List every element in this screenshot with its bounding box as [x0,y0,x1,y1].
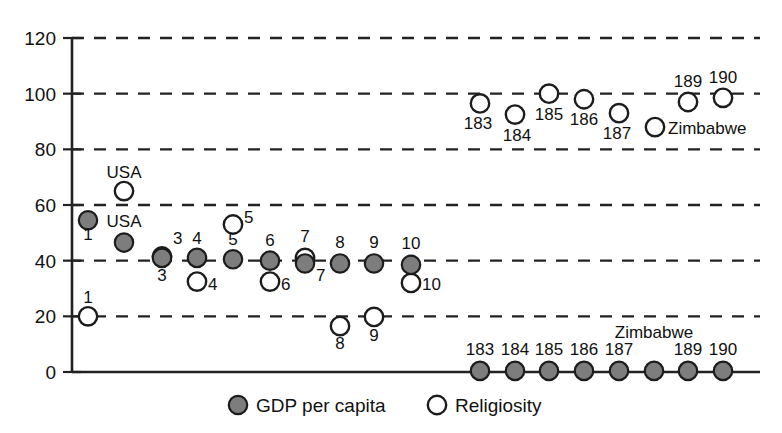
point-label: 7 [316,266,325,285]
point-label: 187 [605,340,633,359]
point-label: 1 [83,225,92,244]
legend: GDP per capitaReligiosity [229,395,542,416]
gdp-point [153,249,171,267]
religiosity-point [331,317,349,335]
religiosity-point [471,94,489,112]
point-label: 186 [570,110,598,129]
religiosity-point [679,93,697,111]
gdp-point [188,249,206,267]
point-label: 8 [335,233,344,252]
religiosity-point [261,272,279,290]
gdp-point [714,362,732,380]
point-label: 9 [369,233,378,252]
point-label: 184 [501,340,529,359]
point-label: 7 [300,227,309,246]
y-tick-label: 100 [24,84,56,105]
gdp-point [679,362,697,380]
point-label: USA [107,212,143,231]
religiosity-cluster-labels: 183184185186187Zimbabwe189190 [464,68,747,145]
point-label: 6 [281,275,290,294]
point-label: 8 [335,334,344,353]
gdp-point [471,362,489,380]
point-label: 4 [192,229,201,248]
gdp-point [506,362,524,380]
point-label: 3 [157,266,166,285]
legend-gdp-marker [229,396,247,414]
gdp-point [296,254,314,272]
y-tick-label: 120 [24,28,56,49]
gdp-point [645,362,663,380]
gdp-point [540,362,558,380]
gdp-cluster-labels: 183184185186187Zimbabwe189190 [466,323,737,359]
point-label: 185 [535,340,563,359]
point-label: 183 [466,340,494,359]
gdp-point [402,256,420,274]
point-label: 185 [535,105,563,124]
point-label: 1 [83,288,92,307]
point-label: 186 [570,340,598,359]
religiosity-point [79,307,97,325]
point-label: 10 [422,275,441,294]
y-tick-label: 80 [35,139,56,160]
point-label: 4 [208,275,217,294]
point-label: 5 [228,230,237,249]
gdp-point [365,254,383,272]
gdp-point [115,233,133,251]
gdp-point [261,251,279,269]
y-tick-label: 60 [35,195,56,216]
point-label: 187 [603,124,631,143]
gdp-point [224,250,242,268]
point-label: 3 [173,229,182,248]
point-label: 189 [674,72,702,91]
y-tick-label: 40 [35,251,56,272]
point-label: 6 [265,231,274,250]
series-religiosity [79,84,732,335]
point-label: 5 [244,208,253,227]
religiosity-point [506,105,524,123]
point-label: 184 [503,126,531,145]
legend-religiosity-label: Religiosity [455,395,542,416]
legend-gdp-label: GDP per capita [256,395,386,416]
religiosity-point [714,89,732,107]
religiosity-point [646,118,664,136]
gdp-point [331,254,349,272]
gdp-point [575,362,593,380]
gdp-point [610,362,628,380]
point-label: 9 [369,326,378,345]
point-label: 189 [674,340,702,359]
religiosity-point [540,84,558,102]
legend-religiosity-marker [428,396,446,414]
religiosity-point [610,104,628,122]
y-tick-label: 0 [45,362,56,383]
scatter-chart: 0204060801001201USA3456789101USA34567891… [0,0,782,433]
religiosity-point [115,182,133,200]
point-label: 183 [464,114,492,133]
point-label: 190 [709,340,737,359]
point-label: 190 [709,68,737,87]
chart-canvas: 0204060801001201USA3456789101USA34567891… [0,0,782,433]
point-label: USA [107,163,143,182]
point-label: Zimbabwe [668,119,746,138]
religiosity-point [188,272,206,290]
point-label: 10 [402,234,421,253]
y-tick-label: 20 [35,306,56,327]
religiosity-point [365,308,383,326]
religiosity-point [402,274,420,292]
religiosity-point [575,90,593,108]
